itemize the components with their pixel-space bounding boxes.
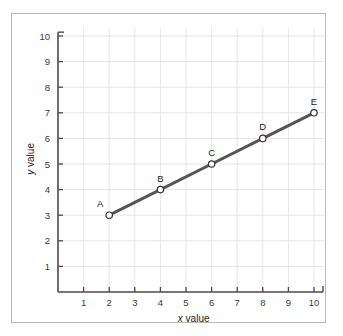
- data-point-marker: [260, 135, 266, 141]
- x-tick-label: 2: [107, 297, 112, 308]
- axis-lines: [58, 32, 323, 292]
- data-point-marker: [106, 212, 112, 218]
- gridlines: [58, 28, 326, 292]
- axis-titles: x valuey value: [25, 143, 210, 324]
- data-point-label: B: [157, 173, 163, 184]
- line-chart: 12345678910 12345678910 ABCDE x valuey v…: [0, 0, 343, 336]
- data-point-label: A: [97, 198, 104, 209]
- y-axis-title: y value: [25, 143, 36, 176]
- data-point-label: E: [311, 96, 317, 107]
- x-tick-label: 3: [132, 297, 137, 308]
- data-point-label: D: [259, 121, 266, 132]
- data-point-label: C: [208, 147, 215, 158]
- y-axis-tick-labels: 12345678910: [39, 31, 50, 272]
- x-tick-label: 6: [209, 297, 214, 308]
- data-point-marker: [157, 186, 163, 192]
- x-tick-label: 7: [235, 297, 240, 308]
- y-tick-label: 8: [45, 82, 50, 93]
- x-axis-title: x value: [177, 313, 210, 324]
- y-tick-label: 3: [45, 210, 50, 221]
- x-tick-label: 4: [158, 297, 163, 308]
- y-tick-label: 1: [45, 261, 50, 272]
- y-tick-label: 10: [39, 31, 50, 42]
- x-axis-tick-labels: 12345678910: [81, 297, 319, 308]
- y-tick-label: 9: [45, 56, 50, 67]
- x-tick-label: 8: [260, 297, 265, 308]
- y-tick-label: 4: [45, 184, 50, 195]
- x-tick-label: 1: [81, 297, 86, 308]
- y-tick-label: 7: [45, 107, 50, 118]
- y-tick-label: 6: [45, 133, 50, 144]
- data-point-marker: [311, 110, 317, 116]
- figure-container: 12345678910 12345678910 ABCDE x valuey v…: [0, 0, 343, 336]
- y-tick-label: 5: [45, 159, 50, 170]
- x-tick-label: 5: [183, 297, 188, 308]
- data-point-marker: [208, 161, 214, 167]
- y-tick-label: 2: [45, 235, 50, 246]
- x-tick-label: 10: [309, 297, 320, 308]
- x-tick-label: 9: [286, 297, 291, 308]
